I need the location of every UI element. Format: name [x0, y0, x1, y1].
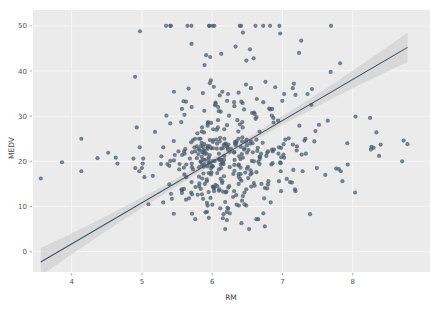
data-point: [268, 24, 272, 28]
data-point: [326, 119, 330, 123]
data-point: [189, 180, 193, 184]
data-point: [180, 107, 184, 111]
data-point: [221, 162, 225, 166]
x-tick-label: 5: [140, 278, 144, 286]
data-point: [161, 145, 165, 149]
data-point: [240, 135, 244, 139]
data-point: [190, 161, 194, 165]
data-point: [235, 203, 239, 207]
data-point: [189, 24, 193, 28]
data-point: [133, 75, 137, 79]
data-point: [297, 124, 301, 128]
data-point: [241, 156, 245, 160]
data-point: [329, 24, 333, 28]
data-point: [242, 147, 246, 151]
data-point: [217, 187, 221, 191]
x-axis-title: RM: [225, 293, 237, 302]
data-point: [151, 174, 155, 178]
data-point: [169, 192, 173, 196]
data-point: [232, 163, 236, 167]
data-point: [172, 212, 176, 216]
data-point: [219, 166, 223, 170]
data-point: [297, 51, 301, 55]
data-point: [244, 58, 248, 62]
data-point: [203, 182, 207, 186]
data-point: [278, 160, 282, 164]
data-point: [290, 180, 294, 184]
data-point: [254, 138, 258, 142]
data-point: [197, 137, 201, 141]
data-point: [263, 80, 267, 84]
data-point: [340, 179, 344, 183]
data-point: [114, 156, 118, 160]
data-point: [317, 123, 321, 127]
data-point: [224, 190, 228, 194]
data-point: [248, 172, 252, 176]
data-point: [255, 97, 259, 101]
data-point: [138, 29, 142, 33]
data-point: [206, 124, 210, 128]
data-point: [300, 152, 304, 156]
data-point: [237, 182, 241, 186]
data-point: [250, 111, 254, 115]
data-point: [225, 123, 229, 127]
data-point: [221, 216, 225, 220]
data-point: [285, 177, 289, 181]
data-point: [202, 63, 206, 67]
data-point: [209, 172, 213, 176]
data-point: [271, 120, 275, 124]
data-point: [293, 93, 297, 97]
data-point: [188, 157, 192, 161]
data-point: [196, 193, 200, 197]
data-point: [379, 143, 383, 147]
data-point: [256, 146, 260, 150]
data-point: [232, 189, 236, 193]
data-point: [256, 217, 260, 221]
data-point: [133, 166, 137, 170]
data-point: [233, 44, 237, 48]
y-axis: 01020304050: [18, 22, 32, 256]
data-point: [183, 152, 187, 156]
data-point: [195, 156, 199, 160]
data-point: [239, 24, 243, 28]
y-axis-title: MEDV: [7, 136, 16, 159]
data-point: [334, 166, 338, 170]
data-point: [181, 99, 185, 103]
data-point: [226, 92, 230, 96]
data-point: [282, 92, 286, 96]
data-point: [310, 87, 314, 91]
data-point: [238, 122, 242, 126]
data-point: [270, 114, 274, 118]
data-point: [153, 130, 157, 134]
data-point: [273, 85, 277, 89]
data-point: [219, 110, 223, 114]
data-point: [182, 172, 186, 176]
data-point: [277, 24, 281, 28]
data-point: [200, 192, 204, 196]
data-point: [237, 172, 241, 176]
data-point: [237, 154, 241, 158]
data-point: [201, 197, 205, 201]
data-point: [131, 157, 135, 161]
data-point: [210, 203, 214, 207]
data-point: [279, 155, 283, 159]
data-point: [189, 140, 193, 144]
data-point: [106, 151, 110, 155]
x-tick-label: 8: [350, 278, 354, 286]
data-point: [280, 99, 284, 103]
data-point: [199, 187, 203, 191]
data-point: [141, 161, 145, 165]
data-point: [308, 212, 312, 216]
data-point: [167, 164, 171, 168]
data-point: [346, 162, 350, 166]
data-point: [291, 168, 295, 172]
data-point: [223, 227, 227, 231]
data-point: [219, 177, 223, 181]
y-tick-label: 10: [18, 203, 27, 211]
x-axis: 45678: [69, 273, 355, 286]
data-point: [221, 212, 225, 216]
data-point: [246, 165, 250, 169]
data-point: [211, 24, 215, 28]
data-point: [315, 166, 319, 170]
data-point: [168, 121, 172, 125]
